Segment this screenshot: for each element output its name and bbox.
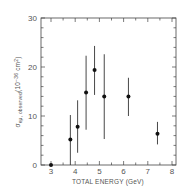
x-axis-ticks: 345678 [49,18,175,176]
marker [68,138,72,142]
data-point [155,122,159,145]
marker [102,94,106,98]
marker [93,68,97,72]
y-axis-title-cm: cm [14,62,21,73]
marker [84,90,88,94]
y-axis-title-close: ) [14,56,22,58]
marker [126,94,130,98]
y-axis-title-subscript: eμ, observed [17,92,23,123]
data-point [49,163,53,167]
y-axis-title-exponent: −36 [13,73,19,82]
x-tick-label: 5 [97,167,102,176]
data-point [84,56,88,130]
plot-border [41,18,176,165]
y-tick-label: 10 [28,112,37,121]
cross-section-chart: 0102030 345678 TOTAL ENERGY (GeV) σeμ, o… [0,0,189,191]
x-tick-label: 3 [49,167,54,176]
x-tick-label: 8 [170,167,175,176]
x-tick-label: 4 [73,167,78,176]
data-point [93,46,97,95]
marker [155,132,159,136]
data-points [49,46,159,167]
marker [76,125,80,129]
data-point [76,100,80,152]
data-point [68,115,72,165]
x-tick-label: 6 [121,167,126,176]
y-tick-label: 0 [33,161,38,170]
y-tick-label: 30 [28,14,37,23]
x-axis-title: TOTAL ENERGY (GeV) [72,178,144,186]
y-axis-title-unit: (10 [14,82,22,92]
x-tick-label: 7 [146,167,151,176]
marker [49,163,53,167]
y-axis-ticks: 0102030 [28,14,176,170]
y-tick-label: 20 [28,63,37,72]
plot-frame [41,18,176,165]
data-point [102,54,106,139]
y-axis-title: σeμ, observed(10−36 cm2) [13,56,23,127]
data-point [126,78,130,116]
